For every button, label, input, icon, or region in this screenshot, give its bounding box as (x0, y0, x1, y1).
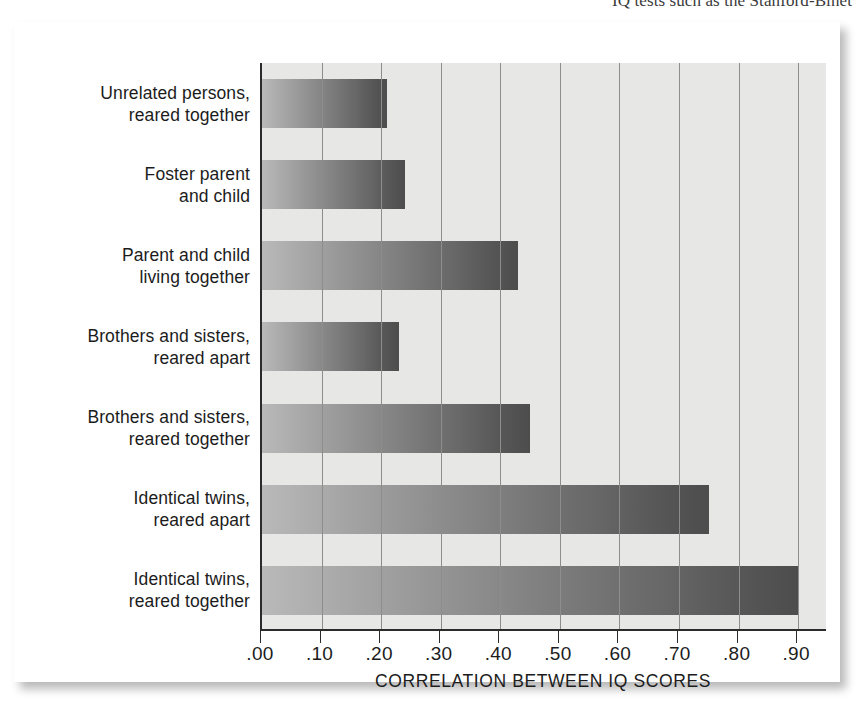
bar-row (262, 144, 826, 225)
x-axis-tick-mark (260, 631, 261, 643)
bar-row (262, 63, 826, 144)
bar-row (262, 225, 826, 306)
bar (262, 160, 405, 209)
bar (262, 566, 798, 615)
x-axis-tick-label: .40 (485, 643, 512, 665)
x-axis-tick-labels: .00.10.20.30.40.50.60.70.80.90 (260, 643, 826, 669)
x-axis-tick-mark (677, 631, 678, 643)
figure-card: Unrelated persons,reared togetherFoster … (14, 22, 840, 682)
x-axis-tick-label: .20 (365, 643, 392, 665)
category-axis-labels: Unrelated persons,reared togetherFoster … (34, 63, 250, 631)
bar (262, 485, 709, 534)
x-axis-tick-label: .90 (783, 643, 810, 665)
bar (262, 241, 518, 290)
x-axis-tick-mark (796, 631, 797, 643)
category-label: Identical twins,reared apart (34, 487, 250, 531)
x-axis-tick-label: .60 (604, 643, 631, 665)
x-axis-tick-label: .70 (663, 643, 690, 665)
category-label: Brothers and sisters,reared apart (34, 325, 250, 369)
category-label: Parent and childliving together (34, 244, 250, 288)
x-axis-tick-mark (439, 631, 440, 643)
bar-row (262, 306, 826, 387)
category-label-line: Unrelated persons, (34, 82, 250, 104)
category-label-line: Parent and child (34, 244, 250, 266)
category-label-line: Foster parent (34, 163, 250, 185)
x-axis-tick-mark (379, 631, 380, 643)
x-axis-tick-label: .00 (246, 643, 273, 665)
category-label-line: Brothers and sisters, (34, 325, 250, 347)
category-label-line: Identical twins, (34, 487, 250, 509)
bar (262, 404, 530, 453)
bar-series (262, 63, 826, 629)
x-axis-title: CORRELATION BETWEEN IQ SCORES (260, 671, 826, 692)
bar (262, 322, 399, 371)
x-axis-tick-mark (558, 631, 559, 643)
bar-row (262, 388, 826, 469)
bar (262, 79, 387, 128)
category-label: Foster parentand child (34, 163, 250, 207)
x-axis-tick-label: .80 (723, 643, 750, 665)
bar-row (262, 550, 826, 631)
x-axis-tick-mark (320, 631, 321, 643)
plot-area (260, 63, 826, 631)
category-label-line: reared together (34, 590, 250, 612)
category-label-line: living together (34, 266, 250, 288)
x-axis-tick-label: .30 (425, 643, 452, 665)
category-label-line: reared apart (34, 347, 250, 369)
x-axis-tick-mark (617, 631, 618, 643)
x-axis-tick-label: .10 (306, 643, 333, 665)
x-axis-tick-marks (260, 631, 826, 643)
category-label: Unrelated persons,reared together (34, 82, 250, 126)
bar-row (262, 469, 826, 550)
category-label-line: reared apart (34, 509, 250, 531)
clipped-header-text: IQ tests such as the Stanford-Binet (0, 0, 858, 11)
category-label: Identical twins,reared together (34, 568, 250, 612)
category-label-line: reared together (34, 104, 250, 126)
x-axis-tick-label: .50 (544, 643, 571, 665)
category-label-line: Brothers and sisters, (34, 406, 250, 428)
category-label-line: reared together (34, 428, 250, 450)
figure-page: IQ tests such as the Stanford-Binet Unre… (0, 0, 858, 703)
category-label-line: Identical twins, (34, 568, 250, 590)
x-axis-tick-mark (498, 631, 499, 643)
category-label-line: and child (34, 185, 250, 207)
category-label: Brothers and sisters,reared together (34, 406, 250, 450)
x-axis-tick-mark (737, 631, 738, 643)
